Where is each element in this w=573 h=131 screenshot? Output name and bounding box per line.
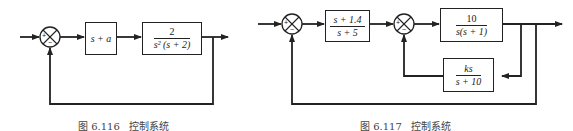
- minus-sign: −: [48, 39, 52, 46]
- block-compensator: s + 1.4 s + 5: [325, 10, 370, 42]
- figure-caption: 图 6.117 控制系统: [360, 118, 451, 131]
- block-rate-feedback: ks s + 10: [443, 58, 494, 92]
- plus-sign: +: [396, 19, 400, 26]
- inner-feedback-path: [502, 24, 521, 76]
- block-plant: 2 s² (s + 2): [142, 22, 202, 55]
- figure-caption: 图 6.116 控制系统: [78, 118, 169, 131]
- minus-sign: −: [290, 26, 294, 33]
- plus-sign: +: [284, 19, 288, 26]
- block-controller: s + a: [85, 22, 117, 55]
- minus-sign: −: [402, 26, 406, 33]
- plus-sign: +: [42, 32, 46, 39]
- block-plant-2: 10 s(s + 1): [440, 8, 503, 42]
